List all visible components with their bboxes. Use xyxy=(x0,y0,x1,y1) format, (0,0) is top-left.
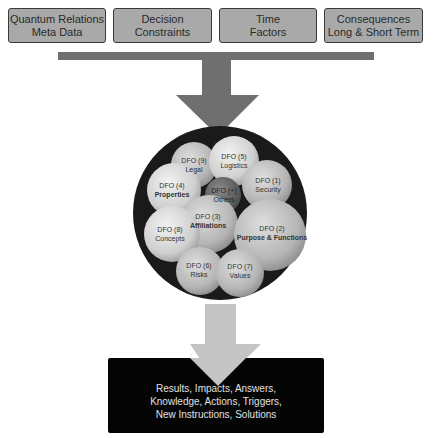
bubble-legal: DFO (9) Legal xyxy=(181,156,206,174)
bubble-id: DFO (1) xyxy=(255,176,280,185)
bubble-label: Logistics xyxy=(220,161,247,170)
bubble-risks: DFO (6) Risks xyxy=(186,261,211,279)
down-arrow-icon xyxy=(176,59,259,136)
output-line3: New Instructions, Solutions xyxy=(108,408,324,421)
bubble-properties: DFO (4) Properties xyxy=(155,181,190,199)
bubble-values: DFO (7) Values xyxy=(227,262,252,280)
bubble-id: DFO (4) xyxy=(155,181,190,190)
bubble-label: Risks xyxy=(186,270,211,279)
output-line2: Knowledge, Actions, Triggers, xyxy=(108,395,324,408)
bubble-id: DFO (+) xyxy=(211,186,236,195)
bubble-others: DFO (+) Others xyxy=(211,186,236,204)
bubble-id: DFO (2) xyxy=(237,224,307,233)
bubble-label: Purpose & Functions xyxy=(237,233,307,242)
bubble-purpose-functions: DFO (2) Purpose & Functions xyxy=(237,224,307,242)
bubble-label: Others xyxy=(211,195,236,204)
bubble-label: Legal xyxy=(181,165,206,174)
bubble-id: DFO (9) xyxy=(181,156,206,165)
bubble-id: DFO (3) xyxy=(190,212,226,221)
bubble-id: DFO (5) xyxy=(220,152,247,161)
bubble-id: DFO (6) xyxy=(186,261,211,270)
output-text: Results, Impacts, Answers, Knowledge, Ac… xyxy=(108,382,324,421)
bubble-label: Affiliations xyxy=(190,221,226,230)
bubble-label: Values xyxy=(227,271,252,280)
bubble-security: DFO (1) Security xyxy=(255,176,280,194)
bubble-logistics: DFO (5) Logistics xyxy=(220,152,247,170)
bubble-label: Properties xyxy=(155,190,190,199)
bubble-id: DFO (7) xyxy=(227,262,252,271)
output-line1: Results, Impacts, Answers, xyxy=(108,382,324,395)
bubble-affiliations: DFO (3) Affiliations xyxy=(190,212,226,230)
bubble-id: DFO (8) xyxy=(155,225,185,234)
bubble-label: Concepts xyxy=(155,234,185,243)
bubble-label: Security xyxy=(255,185,280,194)
bubble-concepts: DFO (8) Concepts xyxy=(155,225,185,243)
